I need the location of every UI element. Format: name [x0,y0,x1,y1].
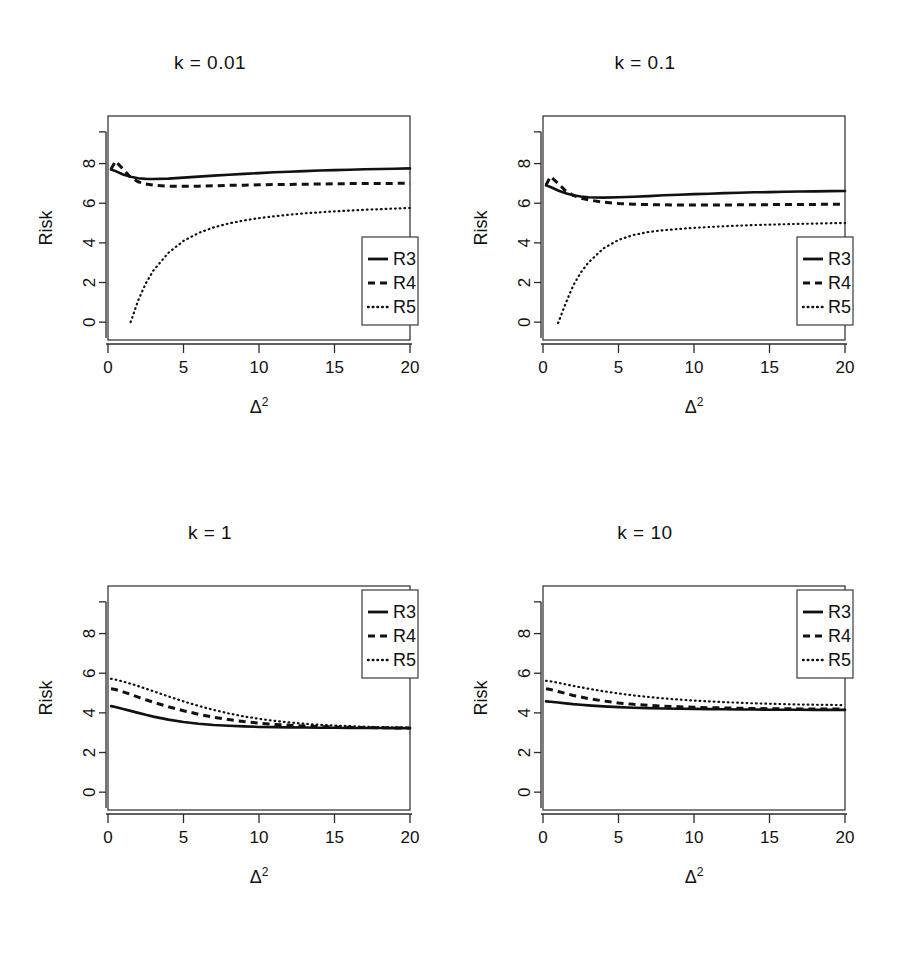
delta-exponent: 2 [262,395,269,409]
delta-symbol: Δ [685,397,697,417]
legend-label-r5: R5 [828,650,851,670]
y-tick-label: 6 [516,198,535,207]
plot-area: 0246805101520RiskΔ2R3R4R5 [435,0,870,470]
x-tick-label: 5 [614,828,623,847]
y-tick-label: 4 [516,238,535,247]
y-tick-label: 2 [81,748,100,757]
x-tick-label: 0 [103,358,112,377]
delta-symbol: Δ [685,867,697,887]
legend-label-r5: R5 [828,297,851,317]
legend-label-r3: R3 [393,602,416,622]
x-axis-title: Δ2 [685,865,704,887]
delta-exponent: 2 [697,395,704,409]
y-tick-label: 8 [81,629,100,638]
x-tick-label: 20 [836,358,855,377]
legend: R3R4R5 [797,237,853,325]
x-tick-label: 15 [325,828,344,847]
y-axis-title: Risk [471,210,491,246]
y-tick-label: 4 [81,238,100,247]
y-axis-title: Risk [471,680,491,716]
x-axis-title: Δ2 [250,865,269,887]
y-tick-label: 2 [516,278,535,287]
series-line-r3 [546,185,845,197]
x-tick-label: 20 [401,358,420,377]
plot-panel-1: k = 0.010246805101520RiskΔ2R3R4R5 [0,0,435,470]
delta-exponent: 2 [697,865,704,879]
plot-panel-2: k = 0.10246805101520RiskΔ2R3R4R5 [435,0,870,470]
x-tick-label: 20 [836,828,855,847]
y-tick-label: 0 [81,317,100,326]
x-tick-label: 10 [685,828,704,847]
y-tick-label: 8 [516,629,535,638]
y-tick-label: 2 [81,278,100,287]
plot-area: 0246805101520RiskΔ2R3R4R5 [0,470,435,940]
legend-label-r3: R3 [828,602,851,622]
plot-panel-3: k = 10246805101520RiskΔ2R3R4R5 [0,470,435,940]
y-tick-label: 4 [81,708,100,717]
y-axis-title: Risk [36,210,56,246]
x-tick-label: 20 [401,828,420,847]
risk-figure: k = 0.010246805101520RiskΔ2R3R4R5k = 0.1… [0,0,906,968]
plot-area: 0246805101520RiskΔ2R3R4R5 [0,0,435,470]
y-tick-label: 6 [516,668,535,677]
legend: R3R4R5 [362,237,418,325]
legend-label-r4: R4 [828,626,851,646]
y-tick-label: 0 [81,787,100,796]
legend-label-r4: R4 [393,626,416,646]
x-tick-label: 5 [179,828,188,847]
y-axis-title: Risk [36,680,56,716]
x-tick-label: 0 [538,828,547,847]
delta-symbol: Δ [250,397,262,417]
x-tick-label: 0 [103,828,112,847]
series-line-r3 [111,168,410,179]
plot-panel-4: k = 100246805101520RiskΔ2R3R4R5 [435,470,870,940]
delta-symbol: Δ [250,867,262,887]
x-tick-label: 15 [760,358,779,377]
x-tick-label: 10 [250,358,269,377]
x-tick-label: 0 [538,358,547,377]
x-tick-label: 10 [685,358,704,377]
x-axis-title: Δ2 [250,395,269,417]
legend-label-r5: R5 [393,297,416,317]
y-tick-label: 6 [81,198,100,207]
y-tick-label: 0 [516,317,535,326]
x-tick-label: 10 [250,828,269,847]
y-tick-label: 8 [516,159,535,168]
legend-label-r4: R4 [828,273,851,293]
legend-label-r3: R3 [393,249,416,269]
delta-exponent: 2 [262,865,269,879]
series-line-r3 [111,706,410,728]
legend: R3R4R5 [362,590,418,678]
x-tick-label: 15 [325,358,344,377]
plot-area: 0246805101520RiskΔ2R3R4R5 [435,470,870,940]
series-line-r5 [111,679,410,728]
y-tick-label: 4 [516,708,535,717]
y-tick-label: 6 [81,668,100,677]
x-tick-label: 15 [760,828,779,847]
y-tick-label: 2 [516,748,535,757]
x-tick-label: 5 [179,358,188,377]
x-axis-title: Δ2 [685,395,704,417]
y-tick-label: 8 [81,159,100,168]
legend: R3R4R5 [797,590,853,678]
legend-label-r3: R3 [828,249,851,269]
series-line-r5 [546,681,845,705]
y-tick-label: 0 [516,787,535,796]
legend-label-r5: R5 [393,650,416,670]
x-tick-label: 5 [614,358,623,377]
series-line-r4 [111,689,410,728]
legend-label-r4: R4 [393,273,416,293]
